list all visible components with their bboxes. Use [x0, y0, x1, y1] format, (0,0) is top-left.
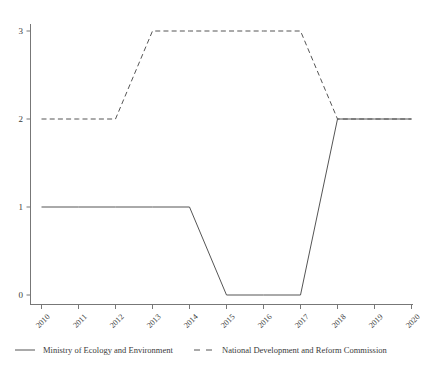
legend-item-national-development-and-reform-commission[interactable]: National Development and Reform Commissi…	[193, 340, 387, 360]
legend-label-ministry-of-ecology-and-environment: Ministry of Ecology and Environment	[43, 345, 173, 355]
x-tick-marks	[42, 305, 412, 310]
legend-sample-dashed-line	[193, 345, 215, 355]
legend-item-ministry-of-ecology-and-environment[interactable]: Ministry of Ecology and Environment	[14, 340, 173, 360]
axes-group	[31, 24, 414, 305]
plot-area	[0, 0, 444, 366]
chart-legend: Ministry of Ecology and Environment Nati…	[0, 340, 444, 362]
y-tick-label: 2	[9, 115, 23, 124]
line-chart-figure: 0123 20102011201220132014201520162017201…	[0, 0, 444, 366]
y-tick-label: 0	[9, 291, 23, 300]
series-line-ministry-of-ecology-and-environment	[42, 119, 412, 295]
y-tick-label: 1	[9, 203, 23, 212]
series-line-national-development-and-reform-commission	[42, 31, 412, 119]
y-tick-label: 3	[9, 27, 23, 36]
data-series-group	[42, 31, 412, 295]
legend-label-national-development-and-reform-commission: National Development and Reform Commissi…	[222, 345, 387, 355]
legend-sample-solid-line	[14, 345, 36, 355]
y-tick-marks	[27, 31, 31, 295]
